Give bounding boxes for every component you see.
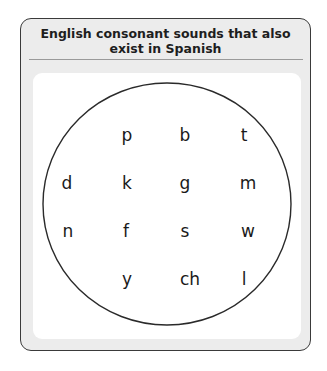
sound-label: y	[122, 271, 132, 288]
sound-label: m	[240, 175, 257, 192]
sound-label: d	[62, 175, 73, 192]
sound-label: t	[241, 127, 248, 144]
sound-label: g	[180, 175, 191, 192]
sound-label: l	[242, 271, 247, 288]
sound-label: s	[181, 223, 190, 240]
venn-circle	[0, 0, 327, 371]
sound-label: k	[122, 175, 132, 192]
sound-label: f	[123, 223, 129, 240]
sound-label: w	[241, 223, 255, 240]
sound-label: p	[122, 127, 133, 144]
sound-label: ch	[180, 271, 200, 288]
sound-label: n	[63, 223, 74, 240]
sound-label: b	[180, 127, 191, 144]
